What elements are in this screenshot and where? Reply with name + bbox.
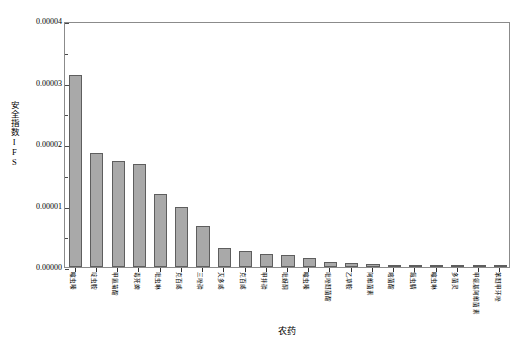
bar: [324, 262, 337, 267]
x-axis-tick: [160, 268, 161, 272]
x-axis-category-label: 噻虫嗪: [300, 272, 311, 324]
x-axis-tick: [499, 268, 500, 272]
x-axis-tick: [75, 268, 76, 272]
x-axis-category-label: 噻虫啉: [428, 272, 439, 324]
y-axis-tick-label: 0.00002: [14, 141, 62, 149]
x-axis-tick: [436, 268, 437, 272]
bar: [260, 254, 273, 267]
bar: [494, 265, 507, 267]
x-axis-tick: [245, 268, 246, 272]
bar: [112, 161, 125, 267]
bar: [90, 153, 103, 267]
bar: [303, 258, 316, 267]
x-axis-category-label: 吡蚜酮: [279, 272, 290, 324]
bar: [409, 265, 422, 267]
x-axis-category-label: 乙草胺: [343, 272, 354, 324]
x-axis-category-label: 苯醚甲环唑: [492, 272, 503, 324]
x-axis-category-label: 甲氰菊酯: [109, 272, 120, 324]
bar: [239, 251, 252, 267]
x-axis-category-label: 灭多威: [215, 272, 226, 324]
x-axis-tick: [223, 268, 224, 272]
x-axis-category-label: 吡虫啉: [152, 272, 163, 324]
x-axis-tick: [372, 268, 373, 272]
bar: [451, 265, 464, 267]
x-axis-category-label: 毒死蜱: [131, 272, 142, 324]
x-axis-category-label: 阿维菌素: [364, 272, 375, 324]
bars-group: [65, 23, 509, 267]
x-axis-category-label: 多菌灵: [449, 272, 460, 324]
x-axis-category-label: 吡唑醚菌酯: [322, 272, 333, 324]
x-axis-category-label: 克百威: [173, 272, 184, 324]
x-axis-tick: [287, 268, 288, 272]
bar-chart: 安全指数IFS 0.000000.000010.000020.000030.00…: [0, 0, 528, 351]
bar: [430, 265, 443, 267]
x-axis-category-label: 噻虫嗪: [67, 272, 78, 324]
bar: [345, 263, 358, 267]
x-axis-category-label: 氟虫腈: [407, 272, 418, 324]
y-axis-tick-label: 0.00004: [14, 18, 62, 26]
x-axis-category-label: 啶虫胺: [88, 272, 99, 324]
x-axis-tick: [202, 268, 203, 272]
x-axis-category-label: 克百威: [237, 272, 248, 324]
x-axis-category-label: 甲氨基阿维菌素: [470, 272, 481, 324]
bar: [175, 207, 188, 267]
x-axis-category-label: 三唑磷: [194, 272, 205, 324]
bar: [154, 194, 167, 267]
bar: [281, 255, 294, 267]
bar: [218, 248, 231, 267]
y-axis-tick-label: 0.00000: [14, 264, 62, 272]
x-axis-tick: [138, 268, 139, 272]
bar: [388, 265, 401, 267]
plot-area: [64, 22, 510, 268]
y-axis-tick-label: 0.00003: [14, 80, 62, 88]
bar: [366, 264, 379, 267]
x-axis-tick: [117, 268, 118, 272]
x-axis-category-labels: 噻虫嗪啶虫胺甲氰菊酯毒死蜱吡虫啉克百威三唑磷灭多威克百威甲拌磷吡蚜酮噻虫嗪吡唑醚…: [64, 272, 510, 324]
bar: [473, 265, 486, 267]
x-axis-category-label: 甲拌磷: [258, 272, 269, 324]
bar: [196, 226, 209, 267]
x-axis-tick: [308, 268, 309, 272]
y-axis-tick-labels: 0.000000.000010.000020.000030.00004: [14, 0, 62, 290]
bar: [133, 164, 146, 267]
x-axis-tick: [393, 268, 394, 272]
x-axis-tick: [96, 268, 97, 272]
x-axis-category-label: 嘧菌酯: [385, 272, 396, 324]
x-axis-tick: [266, 268, 267, 272]
x-axis-tick: [181, 268, 182, 272]
y-axis-tick-label: 0.00001: [14, 203, 62, 211]
x-axis-tick: [478, 268, 479, 272]
bar: [69, 75, 82, 267]
x-axis-title-text: 农药: [278, 326, 296, 336]
x-axis-tick: [351, 268, 352, 272]
x-axis-title: 农药: [64, 326, 510, 337]
x-axis-tick: [457, 268, 458, 272]
x-axis-tick: [414, 268, 415, 272]
x-axis-tick: [329, 268, 330, 272]
